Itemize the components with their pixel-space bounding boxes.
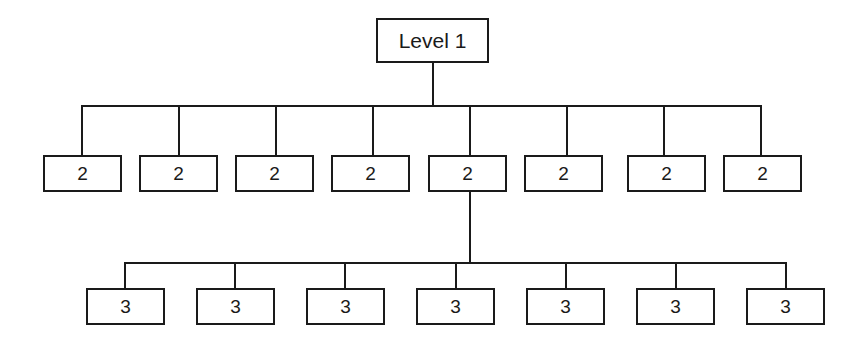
node-label-level3-5: 3 [560, 297, 571, 316]
connector-level2-drop-8 [760, 105, 762, 155]
node-label-level2-6: 2 [558, 164, 569, 183]
node-label-level2-7: 2 [661, 164, 672, 183]
connector-level3-drop-1 [124, 262, 126, 288]
connector-level2-bus [81, 105, 760, 107]
node-box-level3-5[interactable]: 3 [526, 288, 605, 325]
node-box-level3-4[interactable]: 3 [416, 288, 495, 325]
connector-level2-drop-3 [275, 105, 277, 155]
connector-root-stem [432, 63, 434, 105]
connector-level2-drop-2 [178, 105, 180, 155]
node-box-level2-3[interactable]: 2 [235, 155, 314, 192]
node-box-level3-3[interactable]: 3 [306, 288, 385, 325]
node-box-level3-2[interactable]: 3 [196, 288, 275, 325]
connector-level3-drop-5 [565, 262, 567, 288]
connector-level2-drop-5 [469, 105, 471, 155]
connector-level2-drop-6 [566, 105, 568, 155]
connector-level3-drop-7 [785, 262, 787, 288]
node-box-level2-2[interactable]: 2 [139, 155, 218, 192]
connector-level3-drop-6 [675, 262, 677, 288]
node-label-level3-2: 3 [230, 297, 241, 316]
node-box-level2-1[interactable]: 2 [43, 155, 122, 192]
node-box-level2-6[interactable]: 2 [524, 155, 603, 192]
connector-level2-drop-4 [372, 105, 374, 155]
connector-level3-stem [469, 192, 471, 262]
connector-level2-drop-7 [663, 105, 665, 155]
node-label-level3-1: 3 [120, 297, 131, 316]
node-label-level1-1: Level 1 [399, 30, 467, 51]
node-label-level3-6: 3 [670, 297, 681, 316]
connector-level3-drop-2 [234, 262, 236, 288]
node-box-level3-6[interactable]: 3 [636, 288, 715, 325]
node-label-level2-5: 2 [462, 164, 473, 183]
node-box-level1-1[interactable]: Level 1 [376, 18, 489, 63]
node-box-level2-5[interactable]: 2 [428, 155, 507, 192]
node-label-level3-4: 3 [450, 297, 461, 316]
node-label-level2-8: 2 [757, 164, 768, 183]
node-box-level2-8[interactable]: 2 [723, 155, 802, 192]
node-label-level2-3: 2 [269, 164, 280, 183]
node-label-level3-3: 3 [340, 297, 351, 316]
node-box-level3-7[interactable]: 3 [746, 288, 825, 325]
node-label-level3-7: 3 [780, 297, 791, 316]
node-label-level2-1: 2 [77, 164, 88, 183]
connector-level3-drop-4 [455, 262, 457, 288]
node-box-level2-7[interactable]: 2 [627, 155, 706, 192]
node-label-level2-2: 2 [173, 164, 184, 183]
node-box-level2-4[interactable]: 2 [331, 155, 410, 192]
connector-level2-drop-1 [81, 105, 83, 155]
hierarchy-diagram-canvas: Level 1222222223333333 [0, 0, 856, 340]
connector-level3-drop-3 [344, 262, 346, 288]
node-label-level2-4: 2 [365, 164, 376, 183]
node-box-level3-1[interactable]: 3 [86, 288, 165, 325]
